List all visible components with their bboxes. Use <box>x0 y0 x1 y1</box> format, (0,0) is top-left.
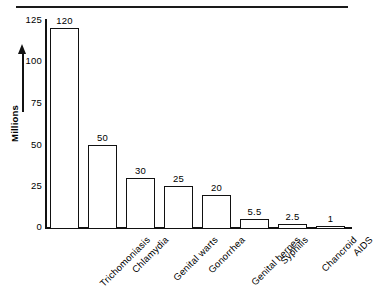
bar-value-label: 2.5 <box>278 212 307 222</box>
x-category-label: Chancroid <box>319 234 359 274</box>
bar-value-label: 5.5 <box>240 207 269 217</box>
bar-genital-herpes <box>202 195 231 228</box>
bar-syphilis <box>240 219 269 228</box>
bar-value-label: 30 <box>126 166 155 176</box>
y-axis-line <box>45 19 47 229</box>
bar-genital-warts <box>126 178 155 228</box>
y-tick-label: 0 <box>8 222 42 232</box>
y-tick-label: 50 <box>8 140 42 150</box>
bar-value-label: 50 <box>88 133 117 143</box>
bar-value-label: 1 <box>316 214 345 224</box>
y-tick-label: 25 <box>8 181 42 191</box>
y-axis-tick-labels: 125 100 75 50 25 0 <box>0 0 42 300</box>
bar-gonorrhea <box>164 186 193 228</box>
y-tick-label: 125 <box>8 15 42 25</box>
top-rule-divider <box>16 6 348 8</box>
bar-value-label: 20 <box>202 183 231 193</box>
y-tick-label: 100 <box>8 56 42 66</box>
bar-value-label: 120 <box>50 16 79 26</box>
y-tick-label: 75 <box>8 98 42 108</box>
bar-aids <box>316 226 345 228</box>
x-category-label: Genital warts <box>171 234 220 283</box>
bar-value-label: 25 <box>164 174 193 184</box>
bar-chlamydia <box>88 145 117 228</box>
bar-trichomoniasis <box>50 28 79 228</box>
bar-chancroid <box>278 224 307 228</box>
